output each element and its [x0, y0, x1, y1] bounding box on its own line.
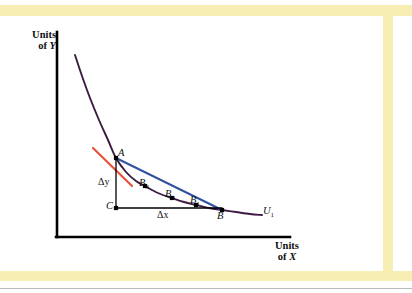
plot-area: Units of Y Units of X A B B1 B2 B3 C Δy …	[0, 0, 412, 293]
indifference-curve-svg	[0, 0, 412, 293]
point-label-b: B	[217, 210, 223, 221]
y-axis-title-line1: Units	[32, 29, 56, 40]
point-label-b3-sub: 3	[145, 183, 149, 191]
x-axis-title-variable: X	[289, 251, 296, 262]
point-label-b2: B2	[165, 188, 175, 202]
x-axis-title-line1: Units	[275, 240, 299, 251]
point-label-b1: B1	[190, 194, 200, 208]
y-axis-title-line2-prefix: of	[38, 40, 49, 51]
y-axis-title-variable: Y	[50, 40, 56, 51]
point-label-b2-sub: 2	[171, 194, 175, 202]
point-label-c: C	[106, 200, 113, 211]
curve-label-u1-base: U	[263, 205, 271, 216]
x-axis-title: Units of X	[256, 240, 318, 262]
point-label-a: A	[118, 147, 124, 158]
delta-y-label: Δy	[98, 177, 109, 188]
x-axis-title-line2-prefix: of	[278, 251, 289, 262]
delta-x-label: Δx	[157, 210, 168, 221]
point-label-b3: B3	[139, 177, 149, 191]
axis-lines	[56, 32, 290, 237]
curve-label-u1-sub: 1	[271, 211, 275, 219]
figure-root: Units of Y Units of X A B B1 B2 B3 C Δy …	[0, 0, 412, 293]
point-label-b1-sub: 1	[196, 200, 200, 208]
curve-label-u1: U1	[263, 205, 274, 219]
point-marker-c	[114, 206, 118, 210]
y-axis-title: Units of Y	[22, 29, 56, 51]
